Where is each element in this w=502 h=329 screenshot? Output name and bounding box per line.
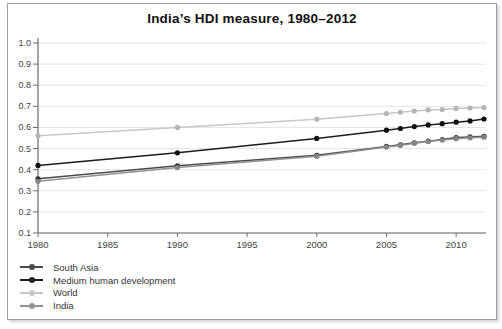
data-point — [412, 108, 417, 113]
line-marker-icon — [20, 266, 43, 268]
y-tick-label: 0.5 — [18, 144, 31, 154]
data-point — [467, 105, 472, 110]
legend-label: Medium human development — [53, 275, 176, 286]
legend-label: South Asia — [53, 262, 98, 273]
chart-legend: South Asia Medium human development Worl… — [20, 261, 176, 312]
data-point — [314, 136, 319, 141]
x-tick-label: 2010 — [446, 239, 467, 250]
y-tick-label: 0.4 — [18, 165, 31, 175]
y-axis: 1.00.90.80.70.60.50.40.30.20.1 — [18, 38, 38, 238]
x-tick-label: 1995 — [236, 239, 257, 250]
series-world — [35, 105, 486, 138]
data-point — [440, 138, 445, 143]
data-point — [175, 125, 180, 130]
y-tick-label: 0.7 — [18, 101, 31, 111]
data-point — [467, 118, 472, 123]
data-point — [314, 117, 319, 122]
line-marker-icon — [20, 292, 43, 294]
y-tick-label: 0.6 — [18, 122, 31, 132]
data-point — [426, 122, 431, 127]
data-point — [454, 106, 459, 111]
data-point — [35, 133, 40, 138]
legend-item-world: World — [20, 287, 176, 300]
data-point — [481, 135, 486, 140]
legend-item-india: India — [20, 299, 176, 312]
y-tick-label: 0.1 — [18, 228, 31, 238]
data-point — [314, 154, 319, 159]
data-point — [426, 107, 431, 112]
x-tick-label: 1990 — [167, 239, 188, 250]
data-point — [384, 128, 389, 133]
data-point — [384, 144, 389, 149]
page: India’s HDI measure, 1980–2012 1.00.90.8… — [0, 0, 502, 329]
data-point — [467, 135, 472, 140]
line-marker-icon — [20, 279, 43, 281]
data-point — [384, 111, 389, 116]
y-tick-label: 1.0 — [18, 38, 31, 48]
y-tick-label: 0.3 — [18, 186, 31, 196]
legend-label: World — [53, 287, 78, 298]
data-point — [454, 120, 459, 125]
chart-canvas: 1.00.90.80.70.60.50.40.30.20.11980198519… — [8, 4, 496, 256]
data-point — [440, 121, 445, 126]
data-point — [412, 141, 417, 146]
data-point — [175, 150, 180, 155]
data-point — [412, 124, 417, 129]
x-tick-label: 1985 — [97, 239, 118, 250]
legend-label: India — [53, 300, 74, 311]
line-marker-icon — [20, 305, 43, 307]
y-tick-label: 0.8 — [18, 80, 31, 90]
y-tick-label: 0.9 — [18, 59, 31, 69]
data-point — [454, 136, 459, 141]
data-point — [398, 110, 403, 115]
legend-item-medium-human-development: Medium human development — [20, 274, 176, 287]
data-point — [398, 126, 403, 131]
data-point — [35, 179, 40, 184]
gridlines — [38, 43, 486, 233]
x-tick-label: 2005 — [376, 239, 397, 250]
chart-frame: India’s HDI measure, 1980–2012 1.00.90.8… — [7, 3, 497, 320]
data-point — [398, 143, 403, 148]
x-tick-label: 2000 — [306, 239, 327, 250]
data-point — [440, 107, 445, 112]
data-point — [481, 105, 486, 110]
legend-item-south-asia: South Asia — [20, 261, 176, 274]
x-axis: 1980198519901995200020052010 — [27, 233, 486, 250]
x-tick-label: 1980 — [27, 239, 48, 250]
data-point — [175, 165, 180, 170]
data-point — [35, 163, 40, 168]
data-point — [481, 116, 486, 121]
data-point — [426, 139, 431, 144]
y-tick-label: 0.2 — [18, 207, 31, 217]
